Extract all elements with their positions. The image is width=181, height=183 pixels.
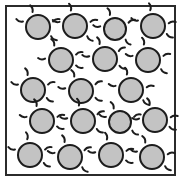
vibration-mark [8, 147, 15, 150]
vibration-mark [165, 166, 171, 170]
vibration-mark [161, 69, 167, 73]
vibration-mark [169, 21, 176, 23]
particle-group [11, 68, 54, 102]
vibration-mark [71, 70, 74, 76]
particle-group [16, 5, 59, 40]
vibration-mark [16, 19, 23, 22]
vibration-mark [99, 114, 106, 117]
vibration-mark [134, 114, 141, 117]
vibration-mark [126, 54, 133, 56]
vibration-mark [25, 68, 28, 75]
particle-group [20, 99, 64, 133]
particle [99, 143, 123, 167]
vibration-mark [76, 65, 83, 68]
particle [140, 145, 164, 169]
vibration-mark [111, 102, 114, 108]
particle [136, 48, 160, 72]
vibration-mark [57, 126, 64, 129]
vibration-mark [82, 167, 87, 172]
vibration-mark [96, 81, 102, 84]
particle [58, 145, 82, 169]
particle-group [126, 38, 170, 73]
vibration-mark [62, 135, 65, 142]
vibration-mark [105, 133, 107, 140]
particle [104, 18, 126, 40]
vibration-mark [143, 100, 148, 105]
vibration-mark [90, 20, 97, 22]
vibration-mark [125, 68, 127, 75]
particle [93, 47, 117, 71]
vibration-mark [126, 160, 133, 163]
vibration-mark [30, 5, 33, 12]
particle [18, 143, 42, 167]
vibration-mark [149, 3, 151, 10]
vibration-mark [109, 84, 116, 86]
particle [21, 78, 45, 102]
particle-group [131, 3, 175, 38]
vibration-mark [60, 117, 67, 119]
particle [63, 14, 87, 38]
vibration-mark [93, 25, 100, 27]
vibration-mark [132, 118, 139, 119]
particle-layer [0, 0, 181, 183]
vibration-mark [107, 8, 110, 15]
vibration-mark [53, 20, 60, 22]
vibration-mark [47, 98, 53, 102]
particle-group [130, 136, 174, 170]
vibration-mark [26, 132, 28, 139]
vibration-mark [126, 40, 131, 45]
vibration-mark [142, 38, 144, 45]
vibration-mark [82, 55, 89, 57]
particle [119, 78, 143, 102]
vibration-mark [87, 36, 92, 41]
vibration-mark [171, 115, 178, 117]
vibration-mark [167, 34, 173, 38]
particle [143, 108, 167, 132]
vibration-mark [38, 58, 45, 59]
vibration-mark [48, 151, 55, 153]
vibration-mark [44, 163, 50, 167]
vibration-mark [163, 54, 170, 56]
particle-group [38, 39, 83, 72]
vibration-mark [88, 151, 95, 153]
vibration-mark [97, 37, 100, 44]
vibration-mark [58, 87, 65, 89]
vibration-mark [69, 4, 71, 11]
vibration-mark [48, 82, 55, 85]
particle [30, 109, 54, 133]
vibration-mark [170, 127, 176, 130]
particle-group [48, 135, 91, 171]
particle [69, 79, 93, 103]
vibration-mark [97, 129, 103, 133]
vibration-mark [132, 131, 138, 135]
particle [109, 111, 131, 133]
vibration-mark [76, 52, 83, 55]
particle [49, 48, 73, 72]
particle-group [8, 132, 51, 167]
vibration-mark [147, 85, 154, 87]
vibration-mark [96, 98, 102, 101]
particle [26, 15, 50, 39]
vibration-mark [142, 136, 145, 142]
vibration-mark [119, 47, 125, 51]
particle [141, 14, 165, 38]
vibration-mark [85, 147, 91, 150]
particle-group [53, 4, 97, 41]
vibration-mark [11, 82, 18, 85]
particle-group [82, 37, 126, 71]
vibration-mark [168, 152, 175, 154]
particle-group [58, 70, 102, 103]
vibration-mark [20, 115, 27, 117]
vibration-mark [45, 147, 52, 150]
diagram-canvas [0, 0, 181, 183]
particle [71, 109, 95, 133]
vibration-mark [98, 111, 104, 114]
particle-group [88, 133, 133, 167]
